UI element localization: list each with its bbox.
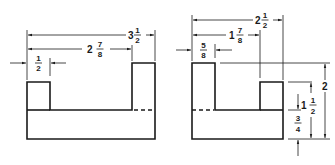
svg-text:8: 8 — [238, 36, 243, 45]
dimension-1-1-2-vertical: 1 1 2 — [301, 83, 321, 138]
svg-text:3: 3 — [128, 30, 134, 41]
dimension-3-1-2: 3 1 2 — [28, 26, 154, 45]
svg-text:2: 2 — [135, 36, 140, 45]
svg-text:3: 3 — [296, 114, 301, 123]
svg-text:2: 2 — [311, 107, 316, 116]
svg-text:8: 8 — [201, 51, 206, 60]
svg-text:5: 5 — [201, 41, 206, 50]
svg-text:2: 2 — [87, 44, 93, 55]
svg-text:1: 1 — [263, 11, 268, 20]
svg-text:4: 4 — [296, 125, 301, 134]
dimension-1-2: 1 2 — [10, 54, 66, 73]
svg-text:1: 1 — [301, 100, 307, 111]
svg-text:1: 1 — [135, 26, 140, 35]
dimension-5-8: 5 8 — [176, 41, 232, 60]
svg-text:8: 8 — [98, 50, 103, 59]
dimension-2-7-8: 2 7 8 — [28, 40, 131, 59]
svg-text:7: 7 — [98, 40, 103, 49]
svg-text:2: 2 — [36, 64, 41, 73]
svg-text:2: 2 — [263, 21, 268, 30]
right-view-outline — [192, 63, 283, 139]
svg-text:1: 1 — [36, 54, 41, 63]
svg-text:2: 2 — [255, 15, 261, 26]
svg-text:1: 1 — [229, 30, 235, 41]
left-view-outline — [27, 63, 155, 139]
left-view: 3 1 2 2 7 8 1 2 — [10, 26, 155, 139]
dimension-2-vertical: 2 — [320, 64, 332, 138]
svg-text:1: 1 — [311, 96, 316, 105]
svg-text:2: 2 — [322, 81, 328, 92]
right-view: 2 1 2 1 7 8 5 8 2 — [176, 11, 332, 156]
technical-drawing: 3 1 2 2 7 8 1 2 — [0, 0, 335, 165]
svg-text:7: 7 — [238, 26, 243, 35]
